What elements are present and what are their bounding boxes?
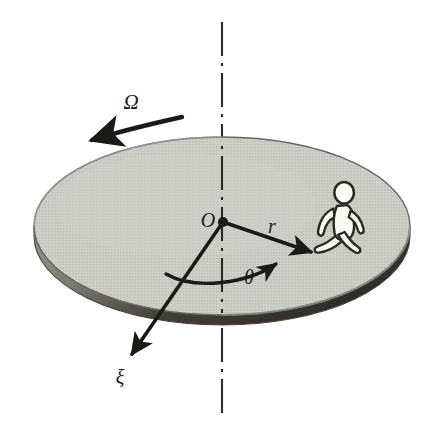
rotation-direction-arrow xyxy=(92,117,182,140)
rotating-disk-figure: Ω O r θ ξ xyxy=(0,0,428,431)
omega-curved-arrow xyxy=(92,117,182,140)
person-head xyxy=(334,182,354,204)
xi-label: ξ xyxy=(116,366,125,388)
radius-label: r xyxy=(268,215,276,237)
origin-point xyxy=(218,217,228,227)
omega-label: Ω xyxy=(123,90,138,114)
origin-dot xyxy=(218,217,228,227)
origin-label: O xyxy=(201,209,215,231)
theta-label: θ xyxy=(244,266,254,288)
figure-canvas: Ω O r θ ξ xyxy=(0,0,428,431)
